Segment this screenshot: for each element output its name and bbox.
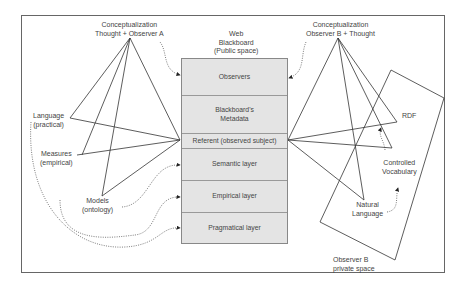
node-natural-language: Natural Language [352, 201, 383, 218]
label-line: Conceptualization [306, 21, 375, 30]
layer-pragmatical: Pragmatical layer [182, 213, 287, 244]
node-controlled-vocabulary: Controlled Vocabulary [382, 159, 417, 176]
node-models-ontology: Models (ontology) [82, 197, 113, 214]
layer-blackboard-metadata: Blackboard's Metadata [182, 96, 287, 134]
observer-a-apex-label: Conceptualization Thought + Observer A [95, 21, 164, 38]
label-line: (Public space) [214, 47, 258, 56]
layer-label: Blackboard's [215, 106, 254, 115]
layer-label: Semantic layer [212, 160, 257, 169]
label-line: (practical) [33, 121, 64, 130]
layer-referent: Referent (observed subject) [182, 134, 287, 149]
label-line: Web [214, 30, 258, 39]
label-line: Controlled [382, 159, 417, 168]
layer-label: Observers [219, 73, 250, 82]
label-line: Vocabulary [382, 168, 417, 177]
layer-semantic: Semantic layer [182, 149, 287, 181]
label-line: Blackboard [214, 39, 258, 48]
observer-b-triangle [288, 38, 397, 200]
private-space-label: Observer B private space [333, 256, 375, 273]
layer-label: Pragmatical layer [208, 224, 261, 233]
label-line: Observer B + Thought [306, 30, 375, 39]
layer-empirical: Empirical layer [182, 181, 287, 213]
label-line: RDF [402, 112, 416, 121]
layer-label: Referent (observed subject) [193, 137, 277, 146]
label-line: Natural [352, 201, 383, 210]
layer-label: Empirical layer [212, 192, 257, 201]
layer-label: Metadata [215, 115, 254, 124]
label-line: Observer B [333, 256, 375, 265]
label-line: (empirical) [40, 159, 73, 168]
observer-b-apex-label: Conceptualization Observer B + Thought [306, 21, 375, 38]
label-line: Thought + Observer A [95, 30, 164, 39]
label-line: Language [33, 112, 64, 121]
observer-a-triangle [70, 38, 180, 196]
node-language-practical: Language (practical) [33, 112, 64, 129]
label-line: Language [352, 210, 383, 219]
layer-observers: Observers [182, 59, 287, 96]
node-rdf: RDF [402, 112, 416, 121]
label-line: Conceptualization [95, 21, 164, 30]
label-line: Measures [40, 150, 73, 159]
label-line: private space [333, 265, 375, 274]
blackboard-title: Web Blackboard (Public space) [214, 30, 258, 56]
label-line: Models [82, 197, 113, 206]
label-line: (ontology) [82, 206, 113, 215]
node-measures-empirical: Measures (empirical) [40, 150, 73, 167]
web-blackboard-column: Observers Blackboard's Metadata Referent… [181, 58, 288, 244]
